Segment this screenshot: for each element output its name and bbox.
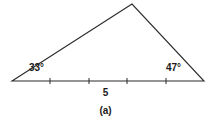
triangle-figure: 33° 47° 5 (a) <box>0 0 211 126</box>
angle-label-right: 47° <box>166 63 181 73</box>
angle-label-left: 33° <box>29 63 44 73</box>
base-length-label: 5 <box>0 88 211 98</box>
figure-caption: (a) <box>0 106 211 116</box>
